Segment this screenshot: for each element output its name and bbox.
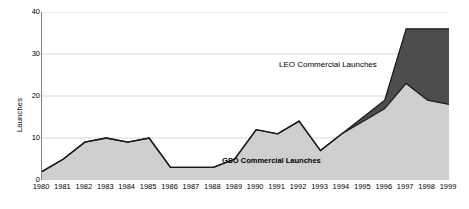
x-axis-tick-label: 1992 — [290, 182, 307, 191]
x-axis-tick-label: 1988 — [204, 182, 221, 191]
series-label-leo: LEO Commercial Launches — [279, 60, 377, 69]
x-axis-tick-label: 1983 — [97, 182, 114, 191]
x-axis-tick-label: 1982 — [75, 182, 92, 191]
x-axis-tick-label: 1990 — [247, 182, 264, 191]
y-axis-tick-label: 20 — [32, 92, 40, 100]
series-label-gso: GSO Commercial Launches — [222, 156, 321, 165]
x-axis-tick-labels: 1980198119821983198419851986198719881989… — [41, 182, 448, 196]
x-axis-tick-label: 1984 — [118, 182, 135, 191]
plot-svg — [42, 12, 449, 180]
plot-area — [41, 12, 448, 180]
x-axis-tick-label: 1994 — [333, 182, 350, 191]
x-axis-tick-label: 1987 — [183, 182, 200, 191]
launches-area-chart: Launches 010203040 198019811982198319841… — [0, 0, 469, 209]
y-axis-tick-label: 30 — [32, 50, 40, 58]
x-axis-tick-label: 1986 — [161, 182, 178, 191]
x-axis-tick-label: 1998 — [418, 182, 435, 191]
x-axis-tick-label: 1981 — [54, 182, 71, 191]
x-axis-tick-label: 1993 — [311, 182, 328, 191]
x-axis-tick-label: 1985 — [140, 182, 157, 191]
x-axis-tick-label: 1999 — [440, 182, 457, 191]
x-axis-tick-label: 1995 — [354, 182, 371, 191]
y-axis-title: Launches — [1, 0, 10, 60]
y-axis-tick-labels: 010203040 — [14, 0, 40, 209]
x-axis-tick-label: 1996 — [375, 182, 392, 191]
x-axis-tick-label: 1989 — [225, 182, 242, 191]
x-axis-tick-label: 1991 — [268, 182, 285, 191]
y-axis-tick-label: 10 — [32, 134, 40, 142]
x-axis-tick-label: 1980 — [33, 182, 50, 191]
y-axis-tick-label: 40 — [32, 8, 40, 16]
x-axis-tick-label: 1997 — [397, 182, 414, 191]
